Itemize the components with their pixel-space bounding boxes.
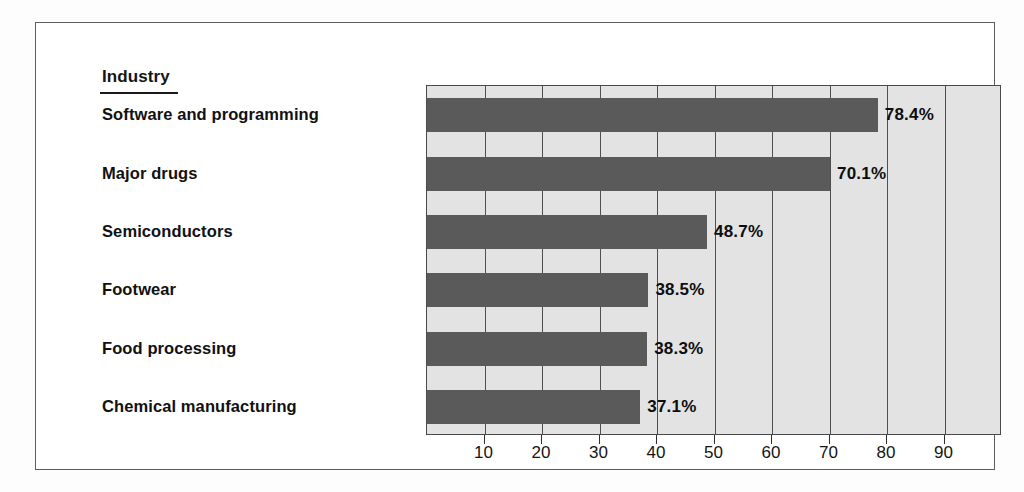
category-axis-title: Industry	[102, 67, 170, 87]
category-label: Software and programming	[102, 97, 319, 131]
bar-value-label: 78.4%	[885, 98, 934, 132]
gridline-30	[600, 86, 601, 434]
gridline-80	[887, 86, 888, 434]
tick-label-20: 20	[532, 443, 551, 463]
gridline-10	[485, 86, 486, 434]
figure-root: Industry Software and programmingMajor d…	[0, 0, 1024, 492]
gridline-20	[542, 86, 543, 434]
tick-label-90: 90	[934, 443, 953, 463]
category-label: Chemical manufacturing	[102, 389, 297, 423]
bar	[427, 157, 830, 191]
category-label: Food processing	[102, 331, 236, 365]
bar-value-label: 48.7%	[714, 215, 763, 249]
plot-area: 78.4%70.1%48.7%38.5%38.3%37.1%	[426, 85, 1001, 435]
tick-label-40: 40	[647, 443, 666, 463]
category-label: Major drugs	[102, 156, 198, 190]
bar-value-label: 38.5%	[655, 273, 704, 307]
bar	[427, 273, 648, 307]
figure-border-frame: Industry Software and programmingMajor d…	[35, 22, 995, 470]
bar	[427, 215, 707, 249]
gridline-90	[945, 86, 946, 434]
bar-value-label: 70.1%	[837, 157, 886, 191]
bar	[427, 332, 647, 366]
gridline-40	[657, 86, 658, 434]
tick-label-30: 30	[589, 443, 608, 463]
tick-label-10: 10	[474, 443, 493, 463]
bar-value-label: 38.3%	[654, 332, 703, 366]
bar	[427, 390, 640, 424]
tick-label-50: 50	[704, 443, 723, 463]
gridline-60	[772, 86, 773, 434]
category-label-column: Software and programmingMajor drugsSemic…	[102, 85, 422, 435]
category-label: Footwear	[102, 272, 176, 306]
gridline-50	[715, 86, 716, 434]
category-label: Semiconductors	[102, 214, 233, 248]
tick-label-70: 70	[819, 443, 838, 463]
gridline-70	[830, 86, 831, 434]
x-axis-tick-labels: 102030405060708090	[426, 443, 1001, 473]
tick-label-60: 60	[762, 443, 781, 463]
bar-value-label: 37.1%	[647, 390, 696, 424]
bar	[427, 98, 878, 132]
tick-label-80: 80	[877, 443, 896, 463]
